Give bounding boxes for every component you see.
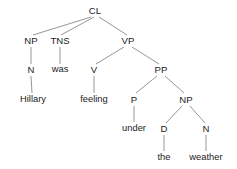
tree-node-vp: VP <box>122 35 135 46</box>
tree-edge-np2-d <box>166 106 182 123</box>
tree-edge-cl-vp <box>99 17 127 35</box>
tree-edge-vp-v <box>96 47 124 64</box>
syntax-tree-canvas: CLNPTNSVPNwasVPPHillaryfeelingPNPunderDN… <box>0 0 237 169</box>
tree-node-v: V <box>91 64 98 75</box>
tree-node-n2: N <box>203 123 210 134</box>
tree-edge-pp-np2 <box>165 76 184 93</box>
tree-edge-n1-hillary <box>31 76 32 93</box>
tree-edge-pp-p <box>136 76 157 93</box>
tree-edge-cl-tns <box>61 17 94 35</box>
tree-leaf-the: the <box>157 151 170 162</box>
tree-node-p: P <box>131 94 137 105</box>
tree-node-layer: CLNPTNSVPNwasVPPHillaryfeelingPNPunderDN… <box>20 5 223 163</box>
tree-node-d: D <box>161 123 168 134</box>
tree-node-n1: N <box>28 64 35 75</box>
tree-node-np1: NP <box>24 35 37 46</box>
tree-leaf-feeling: feeling <box>80 93 108 104</box>
syntax-tree-figure: CLNPTNSVPNwasVPPHillaryfeelingPNPunderDN… <box>0 0 237 169</box>
tree-edge-cl-np1 <box>33 17 91 35</box>
tree-edge-np2-n2 <box>190 106 205 123</box>
tree-leaf-was: was <box>51 63 69 74</box>
tree-leaf-weather: weather <box>188 151 222 162</box>
tree-node-cl: CL <box>89 5 102 16</box>
tree-edge-vp-pp <box>132 47 159 64</box>
tree-leaf-under: under <box>122 122 146 133</box>
tree-node-pp: PP <box>155 64 168 75</box>
tree-leaf-hillary: Hillary <box>20 93 46 104</box>
tree-node-tns: TNS <box>50 35 69 46</box>
tree-node-np2: NP <box>179 94 192 105</box>
